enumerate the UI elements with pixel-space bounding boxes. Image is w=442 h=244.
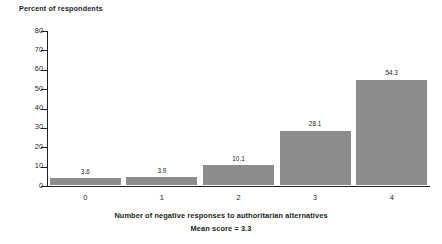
x-tick-label: 2: [236, 193, 240, 202]
plot-area: 01020304050607080 3.603.9110.1228.1354.3…: [47, 31, 430, 186]
y-tick-label: 60: [35, 64, 43, 74]
chart-figure: Percent of respondents 01020304050607080…: [0, 0, 442, 244]
bar: 10.1: [203, 165, 274, 185]
y-tick-label: 40: [35, 103, 43, 113]
x-axis-subtitle: Mean score = 3.3: [0, 224, 442, 233]
y-tick-label: 30: [35, 122, 43, 132]
bar: 3.6: [50, 178, 121, 185]
bar: 54.3: [356, 80, 427, 185]
x-tick-label: 0: [83, 193, 87, 202]
bar-value-label: 28.1: [309, 120, 321, 128]
x-axis-line: [47, 186, 430, 187]
bar-value-label: 54.3: [385, 69, 397, 77]
y-tick-label: 50: [35, 84, 43, 94]
x-tick-label: 4: [390, 193, 394, 202]
y-tick-label: 70: [35, 45, 43, 55]
y-tick-label: 10: [35, 161, 43, 171]
bar: 3.9: [126, 177, 197, 185]
bar-value-label: 10.1: [232, 155, 244, 163]
bar-value-label: 3.9: [157, 167, 166, 175]
y-tick-label: 0: [39, 181, 43, 191]
y-axis-title: Percent of respondents: [19, 4, 103, 13]
x-tick-label: 1: [160, 193, 164, 202]
bar: 28.1: [280, 131, 351, 185]
x-tick-label: 3: [313, 193, 317, 202]
x-axis-title: Number of negative responses to authorit…: [0, 211, 442, 220]
bar-value-label: 3.6: [81, 168, 90, 176]
y-tick-label: 80: [35, 26, 43, 36]
y-tick-label: 20: [35, 142, 43, 152]
